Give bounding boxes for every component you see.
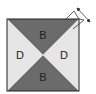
diagram-canvas: B D D B xyxy=(0,0,96,94)
label-left: D xyxy=(16,49,24,61)
label-bottom: B xyxy=(39,71,46,83)
label-top: B xyxy=(39,29,46,41)
label-right: D xyxy=(60,49,68,61)
